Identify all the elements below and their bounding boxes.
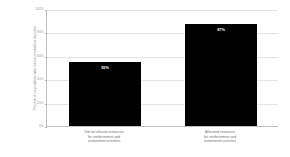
y-tick-mark <box>45 80 48 81</box>
bar[interactable]: 87% <box>185 24 257 126</box>
bar-value-label: 87% <box>185 28 257 32</box>
y-tick-mark <box>45 104 48 105</box>
y-tick-mark <box>45 33 48 34</box>
plot-area: 100%80%60%40%20%0% 55%87% <box>46 10 278 127</box>
y-tick-mark <box>45 10 48 11</box>
bar[interactable]: 55% <box>69 62 141 126</box>
y-tick-mark <box>45 57 48 58</box>
y-tick-label: 80% <box>37 32 43 35</box>
gridline <box>47 10 278 11</box>
y-tick-label: 100% <box>35 8 43 11</box>
y-tick-label: 0% <box>39 125 44 128</box>
x-axis-category-label: Allocated resources for reinforcement an… <box>162 130 278 144</box>
y-tick-label: 20% <box>37 102 43 105</box>
y-tick-label: 60% <box>37 55 43 58</box>
y-tick-mark <box>45 127 48 128</box>
x-axis-category-label: Did not allocate resources for reinforce… <box>46 130 162 144</box>
bar-chart: Percent of respondents who met an evalua… <box>0 0 290 157</box>
bar-value-label: 55% <box>69 66 141 70</box>
y-tick-label: 40% <box>37 78 43 81</box>
